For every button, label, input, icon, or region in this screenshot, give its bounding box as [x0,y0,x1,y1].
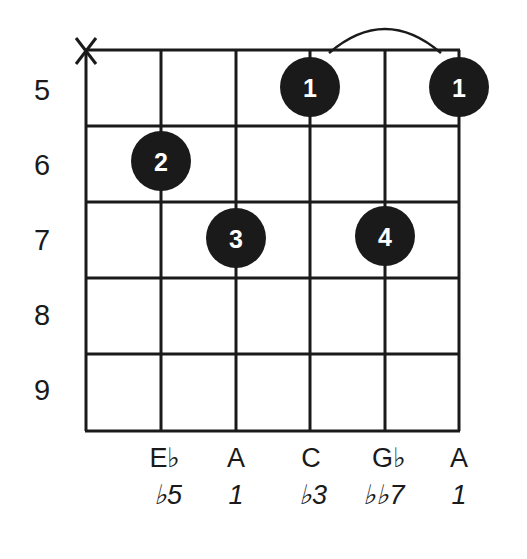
interval-label: ♭5 [154,480,183,510]
finger-number: 1 [452,74,466,102]
finger-dot: 1 [280,57,340,117]
fret-number: 7 [34,224,50,256]
interval-label: 1 [228,480,243,510]
fret-number: 8 [34,299,50,331]
fret-numbers: 5 6 7 8 9 [34,74,50,406]
note-name: G♭ [372,443,406,473]
finger-dot: 3 [206,208,266,268]
note-name: A [450,443,468,473]
finger-dot: 1 [429,57,489,117]
fret-number: 5 [34,74,50,106]
note-name: A [227,443,245,473]
finger-number: 4 [378,223,392,251]
finger-number: 3 [229,225,243,253]
fret-number: 9 [34,374,50,406]
finger-number: 1 [303,74,317,102]
interval-label: 1 [451,480,466,510]
interval-label: ♭3 [299,480,327,510]
note-name: E♭ [149,443,180,473]
finger-dot: 2 [131,131,191,191]
finger-number: 2 [154,148,168,176]
interval-label: ♭♭7 [363,480,405,510]
note-name: C [301,443,321,473]
note-names: E♭ A C G♭ A [149,443,468,473]
finger-dot: 4 [355,206,415,266]
fret-number: 6 [34,149,50,181]
chord-diagram: 5 6 7 8 9 1 1 2 3 4 E♭ A C G♭ [0,0,527,559]
interval-labels: ♭5 1 ♭3 ♭♭7 1 [154,480,467,510]
